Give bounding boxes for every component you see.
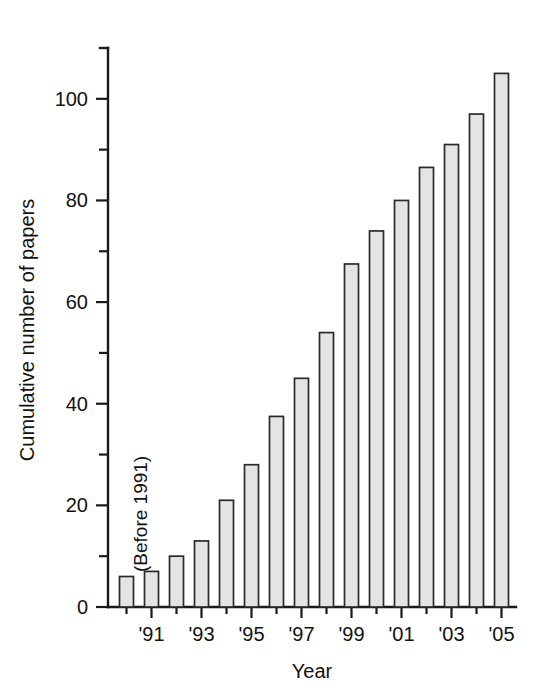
x-tick-label: '03 [438,623,464,645]
bar [420,167,434,607]
bar [470,114,484,607]
bar [120,577,134,607]
bar [170,556,184,607]
x-axis-tick-labels: '91'93'95'97'99'01'03'05 [138,623,514,645]
chart-figure: 020406080100 '91'93'95'97'99'01'03'05 Cu… [0,0,560,696]
y-tick-label: 0 [77,596,88,618]
x-axis-title: Year [292,660,333,682]
y-tick-label: 40 [66,393,88,415]
bar [395,200,409,607]
x-tick-label: '01 [388,623,414,645]
bar [345,264,359,607]
x-tick-label: '95 [238,623,264,645]
bar [495,73,509,607]
bar [445,145,459,607]
y-axis-ticks [96,99,108,607]
x-axis-ticks [127,607,502,618]
bar [295,378,309,607]
y-tick-label: 80 [66,189,88,211]
bar [195,541,209,607]
bar-series [120,73,509,607]
y-tick-label: 20 [66,494,88,516]
x-tick-label: '97 [288,623,314,645]
y-tick-label: 100 [55,88,88,110]
bar [145,571,159,607]
y-axis-title: Cumulative number of papers [16,199,38,461]
x-tick-label: '05 [488,623,514,645]
bar [245,465,259,607]
bar [320,333,334,607]
x-tick-label: '99 [338,623,364,645]
bar [220,500,234,607]
before-1991-annotation: (Before 1991) [130,456,151,572]
bar [270,416,284,607]
x-tick-label: '93 [188,623,214,645]
y-tick-label: 60 [66,291,88,313]
y-axis-tick-labels: 020406080100 [55,88,88,618]
bar [370,231,384,607]
cumulative-papers-bar-chart: 020406080100 '91'93'95'97'99'01'03'05 Cu… [0,0,560,696]
x-tick-label: '91 [138,623,164,645]
